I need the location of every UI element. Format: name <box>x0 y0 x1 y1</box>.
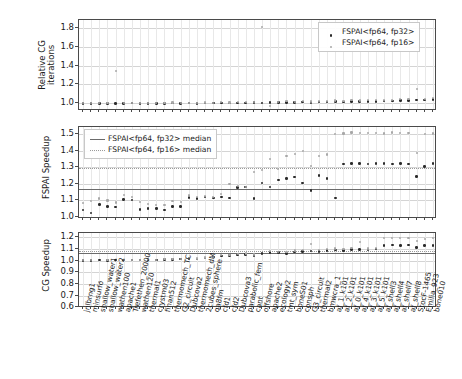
xtick-mark-relative-cg-iterations <box>139 110 140 112</box>
data-point-fp16 <box>180 258 182 260</box>
data-point-fp32 <box>415 175 418 178</box>
gridline-v-fspai-speedup <box>433 127 434 217</box>
xtick-mark-relative-cg-iterations <box>302 110 303 112</box>
xtick-mark-relative-cg-iterations <box>106 110 107 112</box>
gridline-v-relative-cg-iterations <box>164 20 165 109</box>
xtick-mark-relative-cg-iterations <box>367 110 368 112</box>
xtick-mark-fspai-speedup <box>188 218 189 220</box>
data-point-fp16 <box>245 252 247 254</box>
data-point-fp16 <box>424 238 426 240</box>
xtick-mark-relative-cg-iterations <box>334 110 335 112</box>
legend-marker-fp16 <box>323 33 339 52</box>
data-point-fp16 <box>375 247 377 249</box>
y-axis-label-cg-speedup: CG Speedup <box>42 227 51 302</box>
data-point-fp32 <box>432 244 435 247</box>
gridline-v-relative-cg-iterations <box>124 20 125 109</box>
gridline-v-fspai-speedup <box>270 127 271 217</box>
gridline-v-relative-cg-iterations <box>148 20 149 109</box>
gridline-v-fspai-speedup <box>343 127 344 217</box>
data-point-fp16 <box>237 253 239 255</box>
data-point-fp32 <box>163 209 166 212</box>
legend-marker-fp16 <box>89 140 105 159</box>
data-point-fp32 <box>342 163 345 166</box>
data-point-fp16 <box>253 171 255 173</box>
data-point-fp16 <box>131 102 133 104</box>
data-point-fp16 <box>359 99 361 101</box>
y-axis-label-fspai-speedup: FSPAI Speedup <box>42 121 51 213</box>
gridline-v-fspai-speedup <box>278 127 279 217</box>
data-point-fp16 <box>115 201 117 203</box>
data-point-fp16 <box>310 165 312 167</box>
gridline-v-relative-cg-iterations <box>295 20 296 109</box>
data-point-fp16 <box>180 102 182 104</box>
gridline-v-relative-cg-iterations <box>173 20 174 109</box>
data-point-fp16 <box>375 132 377 134</box>
xtick-mark-relative-cg-iterations <box>220 110 221 112</box>
xtick-mark-relative-cg-iterations <box>342 110 343 112</box>
xtick-mark-relative-cg-iterations <box>229 110 230 112</box>
xtick-mark-relative-cg-iterations <box>359 110 360 112</box>
gridline-v-fspai-speedup <box>335 127 336 217</box>
gridline-v-relative-cg-iterations <box>205 20 206 109</box>
ytick-mark-fspai-speedup <box>75 150 78 151</box>
data-point-fp16 <box>407 237 409 239</box>
gridline-v-fspai-speedup <box>238 127 239 217</box>
xtick-mark-fspai-speedup <box>351 218 352 220</box>
data-point-fp32 <box>423 165 426 168</box>
xtick-mark-relative-cg-iterations <box>196 110 197 112</box>
ytick-mark-fspai-speedup <box>75 166 78 167</box>
xtick-mark-relative-cg-iterations <box>285 110 286 112</box>
gridline-v-relative-cg-iterations <box>230 20 231 109</box>
data-point-fp32 <box>277 179 280 182</box>
gridline-v-fspai-speedup <box>221 127 222 217</box>
data-point-fp32 <box>415 246 418 249</box>
xtick-mark-relative-cg-iterations <box>163 110 164 112</box>
xtick-mark-fspai-speedup <box>261 218 262 220</box>
xtick-mark-relative-cg-iterations <box>375 110 376 112</box>
xtick-mark-relative-cg-iterations <box>294 110 295 112</box>
xtick-mark-fspai-speedup <box>375 218 376 220</box>
data-point-fp16 <box>285 155 287 157</box>
gridline-v-fspai-speedup <box>286 127 287 217</box>
data-point-fp16 <box>342 132 344 134</box>
gridline-v-relative-cg-iterations <box>140 20 141 109</box>
gridline-v-relative-cg-iterations <box>213 20 214 109</box>
data-point-fp16 <box>204 256 206 258</box>
data-point-fp16 <box>407 98 409 100</box>
data-point-fp16 <box>350 131 352 133</box>
xtick-mark-fspai-speedup <box>163 218 164 220</box>
median-line-fp16 <box>79 168 435 169</box>
gridline-v-fspai-speedup <box>295 127 296 217</box>
figure-root: 1.01.21.41.61.8Relative CGiterations1.01… <box>0 0 462 379</box>
gridline-v-relative-cg-iterations <box>107 20 108 109</box>
xtick-mark-fspai-speedup <box>416 218 417 220</box>
data-point-fp16 <box>237 185 239 187</box>
data-point-fp16 <box>204 101 206 103</box>
xtick-mark-relative-cg-iterations <box>131 110 132 112</box>
ytick-mark-fspai-speedup <box>75 183 78 184</box>
xtick-mark-relative-cg-iterations <box>188 110 189 112</box>
xtick-mark-fspai-speedup <box>237 218 238 220</box>
gridline-v-fspai-speedup <box>303 127 304 217</box>
gridline-v-fspai-speedup <box>230 127 231 217</box>
ytick-mark-cg-speedup <box>75 306 78 307</box>
data-point-fp16 <box>196 102 198 104</box>
gridline-v-fspai-speedup <box>376 127 377 217</box>
ytick-mark-relative-cg-iterations <box>75 46 78 47</box>
xtick-mark-fspai-speedup <box>245 218 246 220</box>
xtick-mark-relative-cg-iterations <box>253 110 254 112</box>
xtick-mark-relative-cg-iterations <box>277 110 278 112</box>
gridline-v-relative-cg-iterations <box>262 20 263 109</box>
gridline-v-relative-cg-iterations <box>286 20 287 109</box>
xtick-mark-fspai-speedup <box>294 218 295 220</box>
xtick-mark-relative-cg-iterations <box>147 110 148 112</box>
xtick-mark-fspai-speedup <box>90 218 91 220</box>
data-point-fp32 <box>106 205 109 208</box>
xtick-mark-relative-cg-iterations <box>318 110 319 112</box>
data-point-fp16 <box>294 153 296 155</box>
xtick-mark-relative-cg-iterations <box>237 110 238 112</box>
data-point-fp16 <box>131 259 133 261</box>
gridline-v-relative-cg-iterations <box>197 20 198 109</box>
data-point-fp16 <box>294 101 296 103</box>
xtick-mark-relative-cg-iterations <box>383 110 384 112</box>
